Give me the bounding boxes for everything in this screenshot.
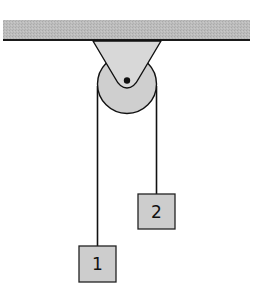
block-2: 2 bbox=[138, 194, 175, 229]
block-1-label: 1 bbox=[92, 254, 103, 274]
block-1: 1 bbox=[79, 246, 116, 282]
pulley-axle bbox=[124, 77, 130, 83]
pulley-diagram: 2 1 bbox=[0, 0, 258, 298]
ceiling bbox=[3, 20, 250, 40]
block-2-label: 2 bbox=[151, 202, 162, 222]
